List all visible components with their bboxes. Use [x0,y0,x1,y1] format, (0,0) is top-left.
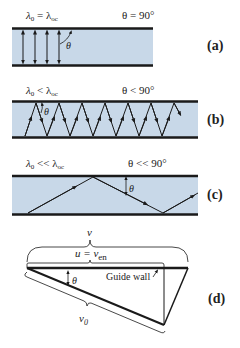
guide-wall-pointer [153,271,157,277]
panel-label-c: (c) [207,187,223,203]
panel-label-d: (d) [208,291,225,307]
theta-label-d: θ [72,275,77,286]
theta-label-b: θ [44,106,49,117]
waveguide-b [12,102,198,137]
angle-label-c: θ << 90° [128,157,167,169]
panel-label-b: (b) [207,112,224,128]
u-label: u = ven [75,247,107,262]
panel-label-a: (a) [207,38,224,54]
waveguide-a [12,29,153,65]
panel-d: v u = ven v0 θ Guide wall (d) [25,226,226,333]
panel-c: λ0 << λoc θ << 90° θ (c) [12,157,223,215]
panel-b: λ0 < λoc θ < 90° θ (b) [12,84,224,138]
angle-label-a: θ = 90° [122,9,154,21]
theta-label-a: θ [66,40,71,51]
condition-label-b: λ0 < λoc [25,84,58,98]
v-brace [27,240,188,262]
theta-label-c: θ [129,183,134,194]
angle-label-b: θ < 90° [122,84,154,96]
condition-label-a: λ0 = λoc [25,9,58,23]
waveguide-diagram: λ0 = λoc θ = 90° θ (a) λ0 < λoc θ < 90° [0,0,240,348]
v-diagonal [164,268,188,325]
v-label: v [87,226,92,238]
condition-label-c: λ0 << λoc [25,157,64,171]
guide-wall-label: Guide wall [106,271,150,282]
v0-label: v0 [79,312,88,327]
panel-a: λ0 = λoc θ = 90° θ (a) [12,9,224,66]
